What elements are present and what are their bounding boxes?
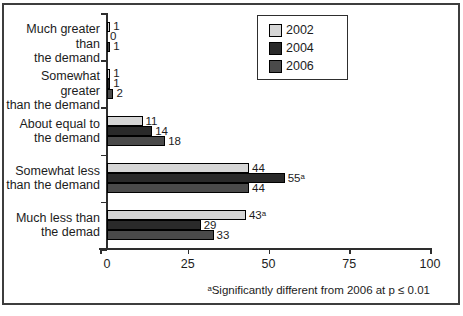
x-axis-tick [100,249,102,254]
value-label: 1 [113,41,119,52]
x-axis-tick [269,249,271,254]
category-label: Much greater thanthe demand [4,22,100,66]
legend: 200220042006 [257,15,348,80]
bar-2002 [107,163,249,173]
bar-2004 [107,79,110,89]
value-label: 14 [155,126,168,137]
legend-swatch-2006 [269,60,282,73]
bar-2006 [107,89,113,99]
x-tick-label: 0 [92,257,122,271]
category-label: Much less thanthe demad [4,211,100,240]
y-axis-tick [101,13,107,15]
x-tick-label: 75 [334,257,364,271]
value-label: 29 [204,220,217,231]
value-label: 43ᵃ [249,210,266,221]
value-label: 33 [217,230,230,241]
value-label: 18 [168,136,181,147]
y-axis-tick [101,107,107,109]
bar-2004 [107,220,201,230]
x-axis-tick [188,249,190,254]
category-label: About equal tothe demand [4,117,100,146]
legend-label: 2002 [286,23,314,37]
bar-2002 [107,69,110,79]
bar-2002 [107,210,246,220]
y-axis-tick [101,202,107,204]
y-axis-tick [101,155,107,157]
bar-2004 [107,126,152,136]
bar-2006 [107,230,214,240]
bar-2006 [107,183,249,193]
legend-label: 2004 [286,41,314,55]
value-label: 44 [252,163,265,174]
legend-entry-2004: 2004 [258,39,347,57]
legend-entry-2006: 2006 [258,57,347,75]
bar-2002 [107,116,143,126]
legend-swatch-2002 [269,24,282,37]
plot-area: 200220042006 ᵃSignificantly different fr… [0,0,463,316]
x-axis-line [99,248,432,250]
figure: 200220042006 ᵃSignificantly different fr… [0,0,463,316]
y-axis-tick [101,249,107,251]
legend-label: 2006 [286,59,314,73]
legend-swatch-2004 [269,42,282,55]
bar-2006 [107,42,110,52]
x-tick-label: 50 [254,257,284,271]
x-tick-label: 25 [173,257,203,271]
value-label: 44 [252,183,265,194]
category-label: Somewhat greaterthan the demand [4,69,100,113]
value-label: 2 [116,88,122,99]
x-tick-label: 100 [415,257,445,271]
bar-2006 [107,136,165,146]
x-axis-tick [430,249,432,254]
y-axis-tick [101,60,107,62]
x-axis-tick [349,249,351,254]
value-label: 55ᵃ [288,173,305,184]
legend-entry-2002: 2002 [258,21,347,39]
footnote: ᵃSignificantly different from 2006 at p … [207,284,430,296]
category-label: Somewhat lessthan the demand [4,164,100,193]
